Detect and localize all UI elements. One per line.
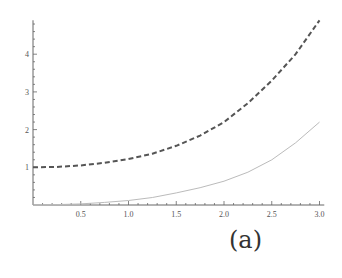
y-tick-label: 1 — [25, 163, 29, 172]
x-tick-label: 2.0 — [219, 210, 229, 219]
dashed-curve — [33, 20, 320, 167]
x-tick-label: 2.5 — [267, 210, 277, 219]
chart-plot: 0.51.01.52.02.53.01234 — [0, 0, 342, 278]
y-tick-label: 3 — [25, 88, 29, 97]
axes: 0.51.01.52.02.53.01234 — [25, 20, 325, 219]
solid-curve — [33, 122, 320, 205]
y-tick-label: 2 — [25, 126, 29, 135]
x-tick-label: 1.5 — [171, 210, 181, 219]
series-layer — [33, 20, 320, 205]
x-tick-label: 3.0 — [315, 210, 325, 219]
x-tick-label: 0.5 — [76, 210, 86, 219]
y-tick-label: 4 — [25, 50, 29, 59]
figure-caption: (a) — [229, 226, 262, 254]
x-tick-label: 1.0 — [124, 210, 134, 219]
